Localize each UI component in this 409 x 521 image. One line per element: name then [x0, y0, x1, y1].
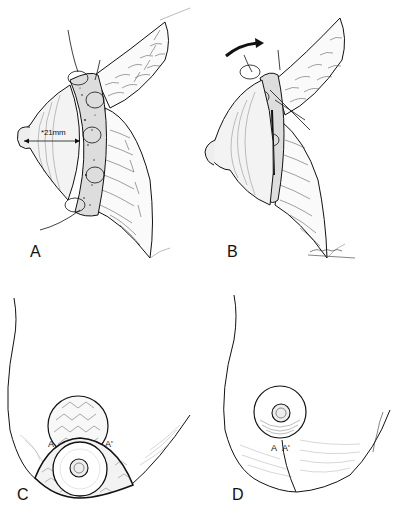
panel-b-illustration	[200, 0, 409, 260]
mark-a-prime: A'	[105, 439, 113, 449]
mark-a-prime: A'	[282, 443, 290, 453]
panel-d-illustration	[200, 260, 409, 521]
measurement-label: *21mm	[41, 128, 65, 137]
panel-b: B	[200, 0, 409, 260]
panel-label-b: B	[227, 244, 238, 260]
panel-a-illustration	[0, 0, 205, 260]
mark-a: A	[271, 443, 277, 453]
panel-label-d: D	[232, 487, 244, 503]
panel-d: A A' D	[200, 260, 409, 521]
panel-label-a: A	[30, 244, 41, 260]
panel-a: *21mm A	[0, 0, 205, 260]
panel-c-illustration	[0, 260, 205, 521]
mark-a: A	[48, 439, 54, 449]
panel-label-c: C	[17, 487, 29, 503]
rotation-arrow-icon	[226, 43, 258, 56]
panel-c: A A' C	[0, 260, 205, 521]
